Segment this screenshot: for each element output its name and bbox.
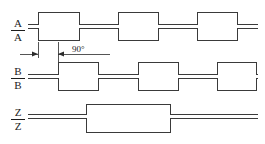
waveform-trace-z-not (28, 118, 258, 132)
waveform-trace-a-not (28, 28, 258, 40)
timing-diagram: A A B B Z Z 90° (0, 0, 265, 144)
waveform-trace-z (28, 104, 258, 114)
phase-arrow-left (32, 51, 38, 56)
waveform-trace-b (28, 62, 258, 74)
phase-arrow-right (58, 51, 64, 56)
waveform-trace-a (28, 12, 258, 24)
waveform-canvas (0, 0, 265, 144)
waveform-trace-b-not (28, 78, 258, 90)
